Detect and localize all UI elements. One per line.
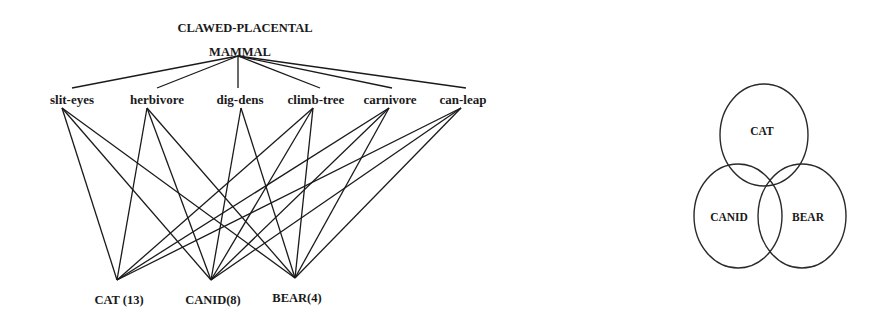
attribute-label-herbivore: herbivore — [130, 92, 184, 107]
attribute-label-carnivore: carnivore — [363, 92, 416, 107]
class-labels: CAT (13)CANID(8)BEAR(4) — [94, 291, 321, 307]
edge-carnivore-cat — [117, 108, 389, 280]
concept-lattice: CLAWED-PLACENTAL MAMMAL slit-eyesherbivo… — [50, 21, 487, 307]
edge-can-leap-bear — [295, 108, 461, 278]
root-label-line1: CLAWED-PLACENTAL — [177, 21, 312, 35]
venn-diagram: CATCANIDBEAR — [694, 84, 846, 268]
edge-herbivore-cat — [117, 108, 147, 280]
edge-slit-eyes-cat — [62, 108, 117, 280]
attribute-label-climb-tree: climb-tree — [288, 92, 345, 107]
attribute-label-dig-dens: dig-dens — [217, 92, 264, 107]
class-label-canid: CANID(8) — [185, 293, 241, 307]
class-label-cat: CAT (13) — [94, 293, 143, 307]
venn-label-cat: CAT — [750, 125, 774, 137]
attribute-labels: slit-eyesherbivoredig-densclimb-treecarn… — [50, 92, 487, 107]
edge-can-leap-canid — [211, 108, 461, 280]
edge-carnivore-canid — [211, 108, 389, 280]
attribute-label-can-leap: can-leap — [440, 92, 487, 107]
edge-root-climb-tree — [238, 56, 320, 88]
edge-dig-dens-bear — [241, 108, 295, 278]
venn-label-canid: CANID — [710, 211, 748, 223]
venn-label-bear: BEAR — [792, 211, 825, 223]
edge-root-can-leap — [238, 56, 466, 88]
class-label-bear: BEAR(4) — [272, 291, 321, 305]
edge-root-carnivore — [238, 56, 392, 88]
root-edges — [72, 56, 466, 88]
root-label-line2: MAMMAL — [209, 45, 271, 59]
attribute-class-edges — [62, 108, 461, 280]
attribute-label-slit-eyes: slit-eyes — [50, 92, 94, 107]
edge-carnivore-bear — [295, 108, 389, 278]
edge-root-herbivore — [157, 56, 238, 88]
edge-root-slit-eyes — [72, 56, 238, 88]
concept-lattice-and-venn-diagram: CLAWED-PLACENTAL MAMMAL slit-eyesherbivo… — [0, 0, 888, 328]
edge-slit-eyes-canid — [62, 108, 211, 280]
edge-herbivore-bear — [147, 108, 295, 278]
